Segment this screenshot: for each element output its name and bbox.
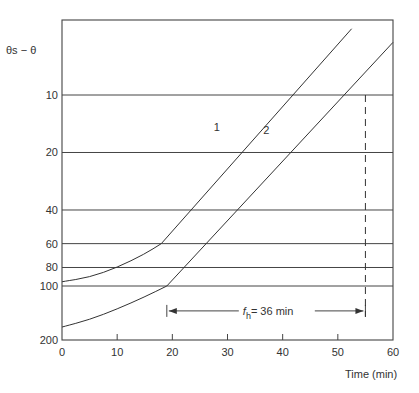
x-tick-label: 0 — [59, 346, 65, 358]
x-tick-label: 10 — [111, 346, 123, 358]
x-tick-label: 20 — [166, 346, 178, 358]
fh-annotation: fh= 36 min — [243, 305, 294, 321]
x-tick-label: 30 — [221, 346, 233, 358]
y-tick-label: 40 — [46, 204, 58, 216]
y-tick-label: 20 — [46, 146, 58, 158]
arrowhead-left — [169, 308, 177, 314]
curve-label-2: 2 — [263, 124, 269, 136]
y-tick-label: 100 — [40, 280, 58, 292]
y-axis-label: θs − θ — [6, 44, 36, 56]
y-tick-label: 200 — [40, 334, 58, 346]
arrowhead-right — [355, 308, 363, 314]
y-tick-label: 60 — [46, 238, 58, 250]
y-tick-label: 10 — [46, 89, 58, 101]
x-axis-label: Time (min) — [345, 368, 397, 380]
x-ticks — [117, 334, 338, 340]
gridlines — [62, 95, 393, 286]
x-tick-labels: 0102030405060 — [59, 346, 399, 358]
y-tick-labels: 1020406080100200 — [40, 89, 58, 346]
y-tick-label: 80 — [46, 261, 58, 273]
x-tick-label: 40 — [277, 346, 289, 358]
plot-frame — [62, 20, 393, 340]
curves: 12 — [62, 29, 393, 327]
curve-2 — [62, 42, 393, 327]
curve-label-1: 1 — [214, 121, 220, 133]
heating-curve-chart: 1020406080100200 0102030405060 12 fh= 36… — [0, 0, 419, 393]
x-tick-label: 50 — [332, 346, 344, 358]
x-tick-label: 60 — [387, 346, 399, 358]
